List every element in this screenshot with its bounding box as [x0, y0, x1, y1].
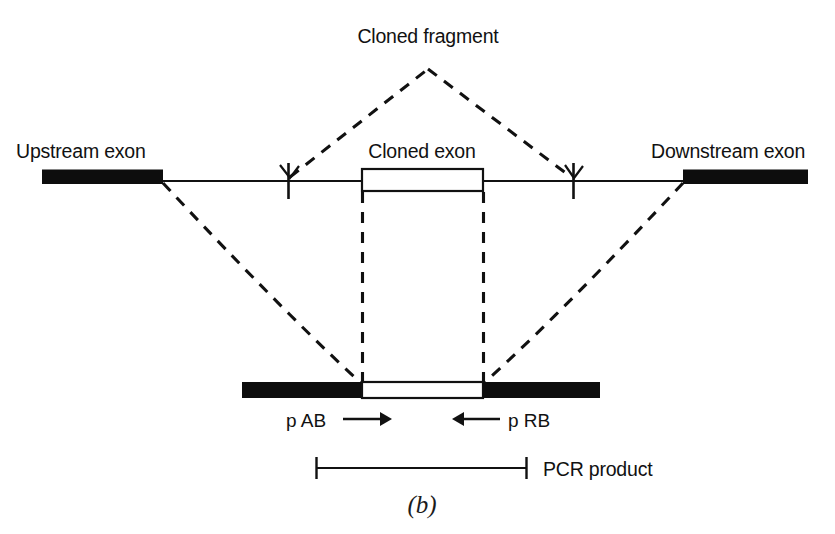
primer-reverse-arrow-icon: [452, 412, 500, 426]
pcr-product-bracket: [316, 457, 527, 479]
upstream-exon-bar: [42, 170, 163, 185]
downstream-exon-label: Downstream exon: [651, 140, 805, 162]
pcr-product-label: PCR product: [543, 458, 653, 480]
right-splice-curve: [483, 183, 683, 384]
left-splice-curve: [163, 183, 362, 384]
upstream-exon-label: Upstream exon: [16, 140, 146, 162]
spliced-bar-right-segment: [483, 382, 600, 398]
spliced-bar-left-segment: [242, 382, 362, 398]
cloned-exon-label: Cloned exon: [368, 140, 475, 162]
primer-reverse-label: p RB: [508, 410, 550, 431]
primer-forward-label: p AB: [286, 410, 326, 431]
cloned-fragment-label: Cloned fragment: [357, 25, 499, 47]
primer-forward-arrow-icon: [343, 412, 392, 426]
panel-letter: (b): [407, 491, 436, 519]
spliced-bar-exon-segment: [362, 382, 483, 398]
cloned-exon-box: [362, 169, 483, 191]
figure-root: Cloned fragment Upstream exon Cloned exo…: [0, 0, 835, 534]
downstream-exon-bar: [683, 170, 808, 185]
exon-trapping-diagram: Cloned fragment Upstream exon Cloned exo…: [0, 0, 835, 534]
spliced-product-bar: [242, 382, 600, 398]
